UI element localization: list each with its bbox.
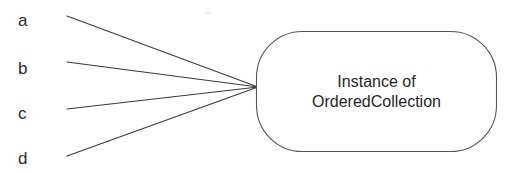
variable-label-a-text: a [18, 11, 27, 30]
variable-label-a: a [18, 12, 27, 29]
variable-label-d-text: d [18, 149, 27, 168]
variable-label-c-text: c [18, 104, 27, 123]
connector-line-c [67, 87, 258, 109]
connector-line-a [67, 16, 258, 87]
variable-label-b-text: b [18, 59, 27, 78]
diagram-canvas: a b c d Instance of OrderedCollection [0, 0, 511, 173]
variable-label-c: c [18, 105, 27, 122]
connector-lines-group [67, 16, 258, 156]
scan-artifact-speck [206, 11, 210, 14]
variable-label-b: b [18, 60, 27, 77]
node-shape-group [257, 32, 497, 152]
object-node-shape [257, 32, 497, 152]
connector-line-b [67, 62, 258, 87]
connector-line-d [67, 87, 258, 156]
diagram-graphics [0, 0, 511, 173]
variable-label-d: d [18, 150, 27, 167]
